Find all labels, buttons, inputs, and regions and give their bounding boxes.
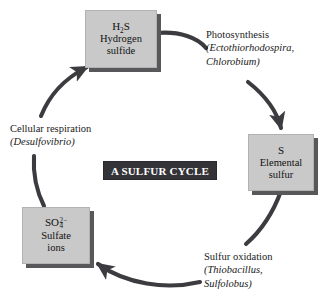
node-elemental-sulfur: S Elemental sulfur	[248, 134, 314, 191]
label-photosynthesis: Photosynthesis (Ectothiorhodospira, Chlo…	[206, 28, 294, 68]
label-cellular-respiration: Cellular respiration (Desulfovibrio)	[10, 122, 91, 149]
node-hydrogen-sulfide-formula: H2S	[112, 20, 130, 33]
label-photosynthesis-name: Photosynthesis	[206, 28, 294, 41]
node-hydrogen-sulfide: H2S Hydrogen sulfide	[85, 10, 157, 68]
label-cellular-respiration-name: Cellular respiration	[10, 122, 91, 135]
arrow-sulfur-to-sulfate-upper	[246, 191, 281, 244]
label-cellular-respiration-organisms-1: (Desulfovibrio)	[10, 135, 91, 148]
arrow-h2s-to-sulfur	[248, 82, 281, 128]
label-sulfur-oxidation-organisms-1: (Thiobacillus,	[204, 263, 273, 276]
node-elemental-sulfur-formula: S	[278, 144, 284, 157]
node-hydrogen-sulfide-line2: sulfide	[107, 45, 136, 57]
sulfur-cycle-diagram: H2S Hydrogen sulfide S Elemental sulfur …	[0, 0, 328, 306]
label-sulfur-oxidation-name: Sulfur oxidation	[204, 250, 273, 263]
label-sulfur-oxidation-organisms-2: Sulfolobus)	[204, 277, 273, 290]
label-photosynthesis-organisms-1: (Ectothiorhodospira,	[206, 41, 294, 54]
node-elemental-sulfur-line1: Elemental	[260, 157, 303, 169]
arrow-sulfate-to-h2s-lower	[34, 156, 44, 206]
page-title: A SULFUR CYCLE	[111, 165, 209, 177]
node-sulfate-ions-line1: Sulfate	[41, 230, 71, 242]
arrow-sulfate-to-h2s	[41, 67, 87, 116]
label-photosynthesis-organisms-2: Chlorobium)	[206, 55, 294, 68]
node-hydrogen-sulfide-line1: Hydrogen	[100, 33, 142, 45]
node-sulfate-ions: SO2−4 Sulfate ions	[22, 207, 90, 264]
label-sulfur-oxidation: Sulfur oxidation (Thiobacillus, Sulfolob…	[204, 250, 273, 290]
arrow-h2s-to-sulfur-upper	[157, 33, 206, 48]
node-sulfate-ions-line2: ions	[47, 242, 65, 254]
arrow-sulfur-to-sulfate	[98, 264, 200, 285]
node-elemental-sulfur-line2: sulfur	[269, 169, 294, 181]
diagram-title-banner: A SULFUR CYCLE	[103, 161, 217, 180]
node-sulfate-ions-formula: SO2−4	[45, 216, 67, 230]
